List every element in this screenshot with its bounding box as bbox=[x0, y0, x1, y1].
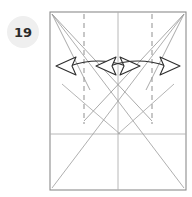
origami-step-figure: 19 bbox=[0, 0, 192, 197]
fold-diagram bbox=[0, 0, 192, 197]
